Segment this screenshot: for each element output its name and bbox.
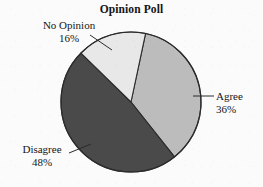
slice-label-no-opinion: No Opinion 16% <box>31 19 107 44</box>
slice-label-disagree: Disagree 48% <box>11 143 73 168</box>
slice-label-agree: Agree 36% <box>216 90 262 115</box>
slice-label-no-opinion-name: No Opinion <box>43 19 95 31</box>
slice-label-disagree-percent: 48% <box>11 156 73 169</box>
slice-label-agree-name: Agree <box>216 90 243 102</box>
slice-label-disagree-name: Disagree <box>22 143 61 155</box>
slice-label-no-opinion-percent: 16% <box>31 32 107 45</box>
slice-label-agree-percent: 36% <box>216 103 262 116</box>
pie-chart-figure: Opinion Poll No Opinion 16% Agree 36% Di… <box>0 0 263 187</box>
